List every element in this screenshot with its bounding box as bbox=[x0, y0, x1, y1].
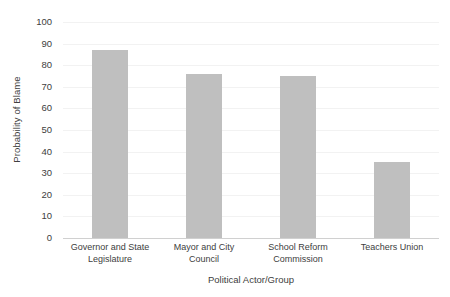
y-tick-label: 20 bbox=[41, 190, 52, 200]
y-tick-label: 60 bbox=[41, 104, 52, 114]
plot-area bbox=[63, 22, 439, 238]
y-tick-label: 10 bbox=[41, 212, 52, 222]
x-tick-label: Governor and State Legislature bbox=[63, 241, 157, 265]
bar[interactable] bbox=[186, 74, 222, 238]
bar-slot bbox=[63, 22, 157, 238]
bar-chart: Probability of Blame 0102030405060708090… bbox=[0, 0, 450, 297]
x-axis-title: Political Actor/Group bbox=[63, 274, 439, 285]
bar-slot bbox=[345, 22, 439, 238]
y-tick-label: 40 bbox=[41, 147, 52, 157]
bar[interactable] bbox=[92, 50, 128, 238]
y-tick-label: 30 bbox=[41, 168, 52, 178]
y-tick-label: 80 bbox=[41, 60, 52, 70]
bar[interactable] bbox=[280, 76, 316, 238]
y-tick-label: 100 bbox=[36, 17, 52, 27]
x-tick-label: Teachers Union bbox=[345, 241, 439, 265]
x-axis-baseline bbox=[63, 238, 439, 239]
x-axis-tick-labels: Governor and State LegislatureMayor and … bbox=[63, 241, 439, 265]
x-axis-title-label: Political Actor/Group bbox=[208, 274, 294, 285]
bar-slot bbox=[157, 22, 251, 238]
bar-series bbox=[63, 22, 439, 238]
y-tick-label: 90 bbox=[41, 39, 52, 49]
x-tick-label: School Reform Commission bbox=[251, 241, 345, 265]
y-tick-label: 50 bbox=[41, 125, 52, 135]
x-tick-label: Mayor and City Council bbox=[157, 241, 251, 265]
y-axis-tick-labels: 0102030405060708090100 bbox=[0, 22, 58, 238]
y-tick-label: 0 bbox=[47, 233, 52, 243]
y-tick-label: 70 bbox=[41, 82, 52, 92]
bar[interactable] bbox=[374, 162, 410, 238]
bar-slot bbox=[251, 22, 345, 238]
